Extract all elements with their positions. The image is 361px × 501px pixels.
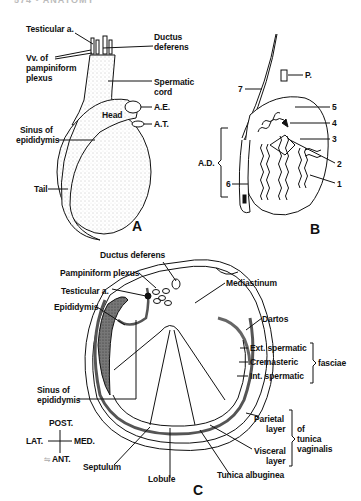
label-orient-lat: LAT. [26,436,43,446]
label-c-epididymis: Epididymis [54,302,98,312]
panel-b-letter: B [310,222,320,236]
label-c-ductus: Ductus deferens [100,250,165,260]
label-c-sinus-1: Sinus of [37,385,70,395]
panel-a-letter: A [132,219,142,233]
label-c-tunica: tunica [297,434,321,444]
label-b-4: 4 [332,118,337,128]
label-c-visceral-1: Visceral [254,446,286,456]
label-c-mediastinum: Mediastinum [226,278,277,288]
panel-c-letter: C [193,483,203,497]
label-b-ad: A.D. [198,158,215,168]
label-orient-ant: ANT. [52,454,71,464]
label-ae: A.E. [154,102,170,112]
label-c-testicular: Testicular a. [61,286,109,296]
label-testicular-a: Testicular a. [26,24,74,34]
label-c-plexus: Pampiniform plexus [60,268,139,278]
label-c-septulum: Septulum [83,462,121,472]
label-c-fasciae: fasciae [318,358,346,368]
label-sinus-a-2: epididymis [16,135,59,145]
label-spermatic-cord-2: cord [154,87,172,97]
label-c-albuginea: Tunica albuginea [217,470,284,480]
label-b-p: P. [305,70,312,80]
label-b-6: 6 [226,179,231,189]
label-c-visceral-2: layer [266,456,285,466]
label-spermatic-cord-1: Spermatic [154,77,194,87]
label-c-cremasteric: Cremasteric [250,357,298,367]
label-head: Head [102,110,122,120]
label-c-parietal-2: layer [266,424,285,434]
svg-text:⇋: ⇋ [44,455,51,464]
label-vv-plexus-2: pampiniform [26,63,76,73]
label-c-of: of [297,424,305,434]
label-tail: Tail [34,184,48,194]
label-c-sinus-2: epididymis [37,395,80,405]
label-orient-post: POST. [49,418,73,428]
label-c-int-spermatic: Int. spermatic [250,371,304,381]
label-c-dartos: Dartos [262,314,288,324]
label-b-1: 1 [337,179,342,189]
label-ductus-1: Ductus [154,32,182,42]
label-c-lobule: Lobule [148,474,175,484]
label-vv-plexus-1: Vv. of [26,53,48,63]
panel-b-drawing [218,34,335,215]
label-b-3: 3 [332,134,337,144]
label-c-vaginalis: vaginalis [297,444,332,454]
label-orient-med: MED. [74,436,95,446]
label-c-ext-spermatic: Ext. spermatic [250,343,307,353]
label-ductus-2: deferens [154,42,189,52]
label-at: A.T. [154,119,169,129]
label-c-parietal-1: Parietal [254,414,284,424]
label-b-7: 7 [238,84,243,94]
label-b-2: 2 [337,159,342,169]
label-sinus-a-1: Sinus of [20,125,53,135]
label-vv-plexus-3: plexus [26,73,52,83]
label-b-5: 5 [332,102,337,112]
